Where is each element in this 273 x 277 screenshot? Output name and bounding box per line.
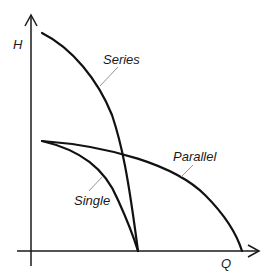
single-leader-line xyxy=(89,177,102,191)
y-axis-label: H xyxy=(13,37,23,52)
parallel-leader-line xyxy=(181,165,193,177)
x-axis-label: Q xyxy=(221,256,231,271)
single-label: Single xyxy=(74,193,110,208)
series-leader-line xyxy=(100,67,118,86)
pump-curves-diagram: H Q Series Parallel Single xyxy=(0,0,273,277)
y-axis xyxy=(25,15,37,266)
parallel-label: Parallel xyxy=(173,149,217,164)
series-label: Series xyxy=(103,52,140,67)
